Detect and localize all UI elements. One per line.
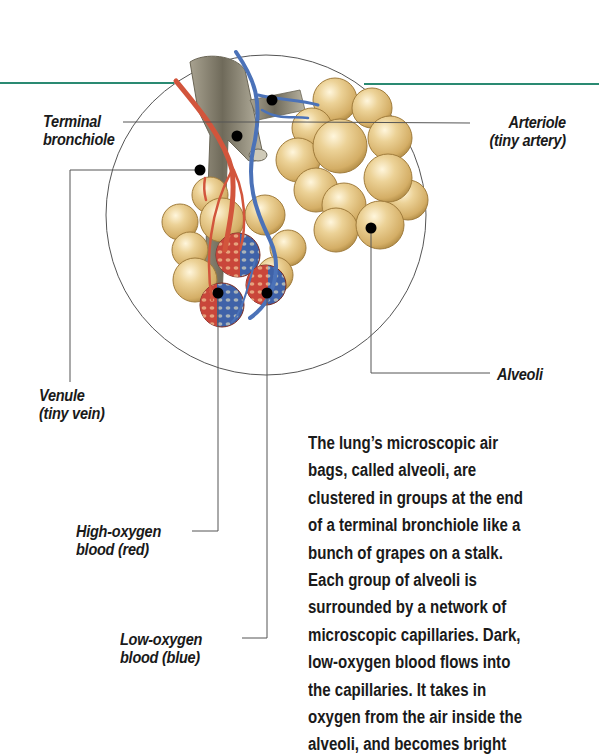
caption-paragraph: The lung’s microscopic airbags, called a… bbox=[308, 430, 566, 756]
label-arteriole: Arteriole (tiny artery) bbox=[490, 113, 566, 149]
dot-venule bbox=[195, 165, 206, 176]
label-line: High-oxygen bbox=[76, 522, 161, 540]
caption-line: of a terminal bronchiole like a bbox=[308, 512, 566, 539]
label-line: Terminal bbox=[43, 112, 115, 130]
dot-arteriole bbox=[267, 95, 278, 106]
caption-line: The lung’s microscopic air bbox=[308, 430, 566, 457]
dot-alveoli bbox=[366, 223, 377, 234]
label-line: Arteriole bbox=[490, 113, 566, 131]
caption-line: Each group of alveoli is bbox=[308, 567, 566, 594]
label-line: (tiny artery) bbox=[490, 131, 566, 149]
caption-line: microscopic capillaries. Dark, bbox=[308, 622, 566, 649]
caption-line: bags, called alveoli, are bbox=[308, 457, 566, 484]
caption-line: surrounded by a network of bbox=[308, 594, 566, 621]
label-line: blood (blue) bbox=[120, 648, 202, 666]
label-line: bronchiole bbox=[43, 130, 115, 148]
label-alveoli: Alveoli bbox=[497, 365, 543, 383]
label-line: Venule bbox=[39, 386, 105, 404]
caption-line: oxygen from the air inside the bbox=[308, 704, 566, 731]
caption-line: alveoli, and becomes bright bbox=[308, 731, 566, 756]
caption-line: bunch of grapes on a stalk. bbox=[308, 540, 566, 567]
label-line: blood (red) bbox=[76, 540, 161, 558]
label-line: Low-oxygen bbox=[120, 630, 202, 648]
label-terminal-bronchiole: Terminal bronchiole bbox=[43, 112, 115, 148]
label-low-oxygen-blood: Low-oxygen blood (blue) bbox=[120, 630, 202, 666]
caption-line: clustered in groups at the end bbox=[308, 485, 566, 512]
label-venule: Venule (tiny vein) bbox=[39, 386, 105, 422]
caption-line: the capillaries. It takes in bbox=[308, 677, 566, 704]
dot-low-oxygen bbox=[262, 288, 273, 299]
label-high-oxygen-blood: High-oxygen blood (red) bbox=[76, 522, 161, 558]
dot-terminal-bronchiole bbox=[232, 131, 243, 142]
caption-line: low-oxygen blood flows into bbox=[308, 649, 566, 676]
label-line: Alveoli bbox=[497, 365, 543, 383]
label-line: (tiny vein) bbox=[39, 404, 105, 422]
dot-high-oxygen bbox=[213, 288, 224, 299]
